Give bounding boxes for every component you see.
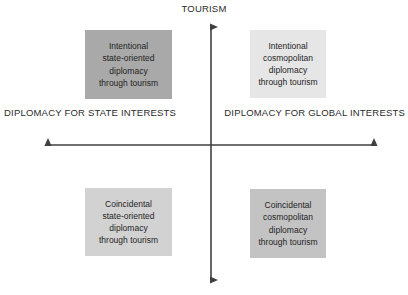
quadrant-text-line: Intentional <box>268 40 307 52</box>
quadrant-text-line: diplomacy <box>269 64 307 76</box>
quadrant-coincidental-state-oriented: Coincidental state-oriented diplomacy th… <box>85 188 172 256</box>
quadrant-text-line: through tourism <box>258 76 317 88</box>
quadrant-text-line: cosmopolitan <box>263 211 313 223</box>
horizontal-axis-right-label: DIPLOMACY FOR GLOBAL INTERESTS <box>224 106 405 119</box>
quadrant-text-line: Coincidental <box>105 198 152 210</box>
quadrant-text-line: diplomacy <box>269 224 307 236</box>
quadrant-text-line: Coincidental <box>265 199 312 211</box>
quadrant-text-line: diplomacy <box>109 222 147 234</box>
left-label-line-2: STATE INTERESTS <box>88 107 176 118</box>
vertical-axis-label: TOURISM <box>0 2 408 15</box>
quadrant-text-line: Intentional <box>109 40 148 52</box>
quadrant-text-line: state-oriented <box>103 210 155 222</box>
quadrant-text-line: through tourism <box>99 234 158 246</box>
quadrant-text-line: diplomacy <box>109 65 147 77</box>
horizontal-axis-left-label: DIPLOMACY FOR STATE INTERESTS <box>4 106 176 119</box>
quadrant-intentional-cosmopolitan: Intentional cosmopolitan diplomacy throu… <box>250 30 326 98</box>
quadrant-text-line: through tourism <box>99 77 158 89</box>
quadrant-text-line: through tourism <box>258 236 317 248</box>
quadrant-coincidental-cosmopolitan: Coincidental cosmopolitan diplomacy thro… <box>250 189 326 258</box>
right-label-line-2: GLOBAL INTERESTS <box>308 107 405 118</box>
quadrant-text-line: cosmopolitan <box>263 52 313 64</box>
right-label-line-1: DIPLOMACY FOR <box>224 107 305 118</box>
quadrant-text-line: state-oriented <box>103 52 155 64</box>
diagram-canvas: TOURISM DIPLOMACY FOR STATE INTERESTS DI… <box>0 0 408 295</box>
axes-group <box>0 0 408 295</box>
left-label-line-1: DIPLOMACY FOR <box>4 107 85 118</box>
quadrant-intentional-state-oriented: Intentional state-oriented diplomacy thr… <box>85 30 172 99</box>
